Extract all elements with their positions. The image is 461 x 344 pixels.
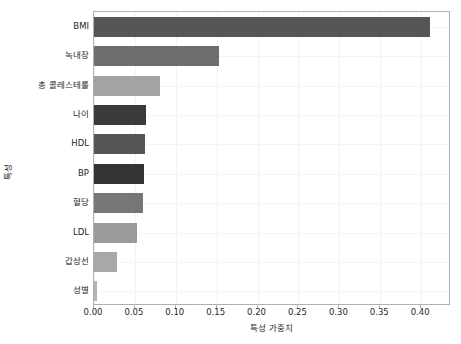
x-axis-tick-label: 0.10 — [165, 307, 184, 318]
bar — [94, 223, 137, 243]
y-axis-tick-labels: BMI녹내장총 콜레스테롤나이HDLBP혈당LDL갑상선성별 — [9, 11, 89, 305]
x-axis-tick-mark — [134, 305, 135, 308]
bar — [94, 76, 160, 96]
x-axis-tick-mark — [257, 305, 258, 308]
x-axis-tick-label: 0.35 — [370, 307, 389, 318]
x-axis-title: 특성 가중치 — [93, 321, 450, 333]
bar — [94, 164, 144, 184]
x-axis-tick-mark — [175, 305, 176, 308]
x-axis-tick-label: 0.30 — [329, 307, 348, 318]
x-axis-tick-mark — [338, 305, 339, 308]
x-axis-tick-label: 0.40 — [411, 307, 430, 318]
bar-chart-figure: 특성 BMI녹내장총 콜레스테롤나이HDLBP혈당LDL갑상선성별 0.000.… — [0, 0, 461, 344]
x-axis-tick-mark — [379, 305, 380, 308]
bar — [94, 134, 145, 154]
x-axis-tick-mark — [420, 305, 421, 308]
y-axis-tick-label: 혈당 — [11, 197, 89, 207]
x-axis-tick-mark — [93, 305, 94, 308]
y-axis-tick-label: 나이 — [11, 109, 89, 119]
bar — [94, 105, 146, 125]
horizontal-gridline — [94, 262, 449, 263]
x-axis-tick-label: 0.00 — [84, 307, 103, 318]
y-axis-tick-label: BMI — [11, 21, 89, 31]
x-axis-tick-mark — [297, 305, 298, 308]
bar — [94, 46, 219, 66]
y-axis-tick-label: LDL — [11, 227, 89, 237]
x-axis-tick-mark — [216, 305, 217, 308]
x-axis-tick-label: 0.20 — [247, 307, 266, 318]
horizontal-gridline — [94, 144, 449, 145]
bar — [94, 252, 117, 272]
x-axis-tick-label: 0.05 — [124, 307, 143, 318]
horizontal-gridline — [94, 291, 449, 292]
bar — [94, 193, 143, 213]
horizontal-gridline — [94, 174, 449, 175]
plot-area — [93, 11, 450, 305]
bar — [94, 281, 97, 301]
bar — [94, 17, 430, 37]
y-axis-tick-label: BP — [11, 168, 89, 178]
x-axis-tick-label: 0.25 — [288, 307, 307, 318]
horizontal-gridline — [94, 203, 449, 204]
y-axis-tick-label: 갑상선 — [11, 256, 89, 266]
y-axis-tick-label: 녹내장 — [11, 50, 89, 60]
horizontal-gridline — [94, 115, 449, 116]
y-axis-tick-label: HDL — [11, 138, 89, 148]
x-axis-tick-label: 0.15 — [206, 307, 225, 318]
horizontal-gridline — [94, 233, 449, 234]
x-axis-tick-labels: 0.000.050.100.150.200.250.300.350.40 — [93, 307, 450, 321]
y-axis-tick-label: 성별 — [11, 285, 89, 295]
y-axis-tick-label: 총 콜레스테롤 — [11, 80, 89, 90]
